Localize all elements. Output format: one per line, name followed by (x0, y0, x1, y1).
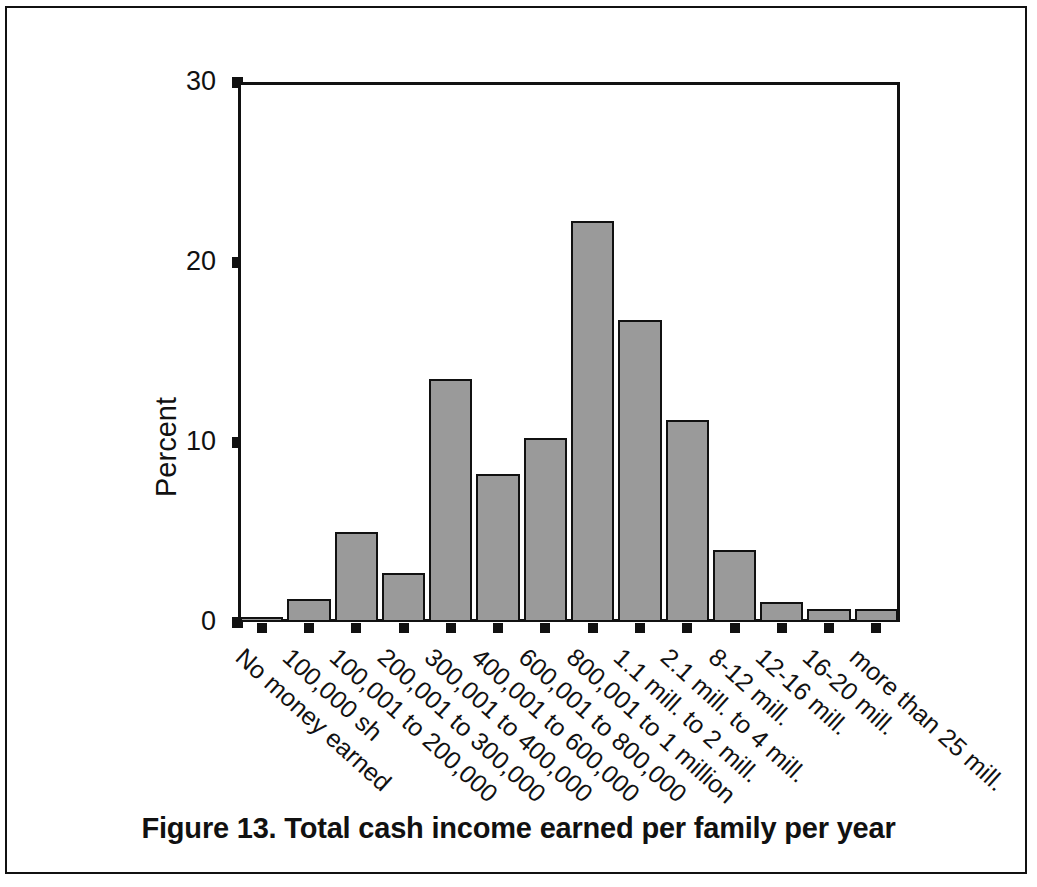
y-tick-label-20: 20 (170, 248, 216, 275)
x-tick-mark (682, 623, 692, 633)
bar (524, 438, 567, 622)
bar (335, 532, 378, 622)
x-tick-mark (351, 623, 361, 633)
bar (618, 320, 661, 622)
x-tick-mark (399, 623, 409, 633)
bar (476, 474, 519, 622)
bar (807, 609, 850, 622)
bar (382, 573, 425, 622)
bar (713, 550, 756, 622)
y-tick-label-30: 30 (170, 68, 216, 95)
y-tick-label-0: 0 (170, 608, 216, 635)
x-tick-mark (635, 623, 645, 633)
x-tick-mark (304, 623, 314, 633)
bar (571, 221, 614, 622)
y-tick-label-10: 10 (170, 428, 216, 455)
x-tick-mark (777, 623, 787, 633)
bar-chart: Percent 0102030 No money earned100,000 s… (0, 0, 1037, 887)
x-tick-mark (824, 623, 834, 633)
x-tick-mark (540, 623, 550, 633)
x-tick-mark (730, 623, 740, 633)
bars-layer (238, 82, 900, 622)
x-tick-mark (257, 623, 267, 633)
bar (760, 602, 803, 622)
bar (855, 609, 898, 622)
bar (666, 420, 709, 622)
figure-caption: Figure 13. Total cash income earned per … (0, 812, 1037, 845)
x-tick-mark (446, 623, 456, 633)
bar (429, 379, 472, 622)
x-tick-mark (588, 623, 598, 633)
bar (287, 599, 330, 622)
bar (240, 617, 283, 622)
x-tick-mark (493, 623, 503, 633)
x-tick-mark (871, 623, 881, 633)
